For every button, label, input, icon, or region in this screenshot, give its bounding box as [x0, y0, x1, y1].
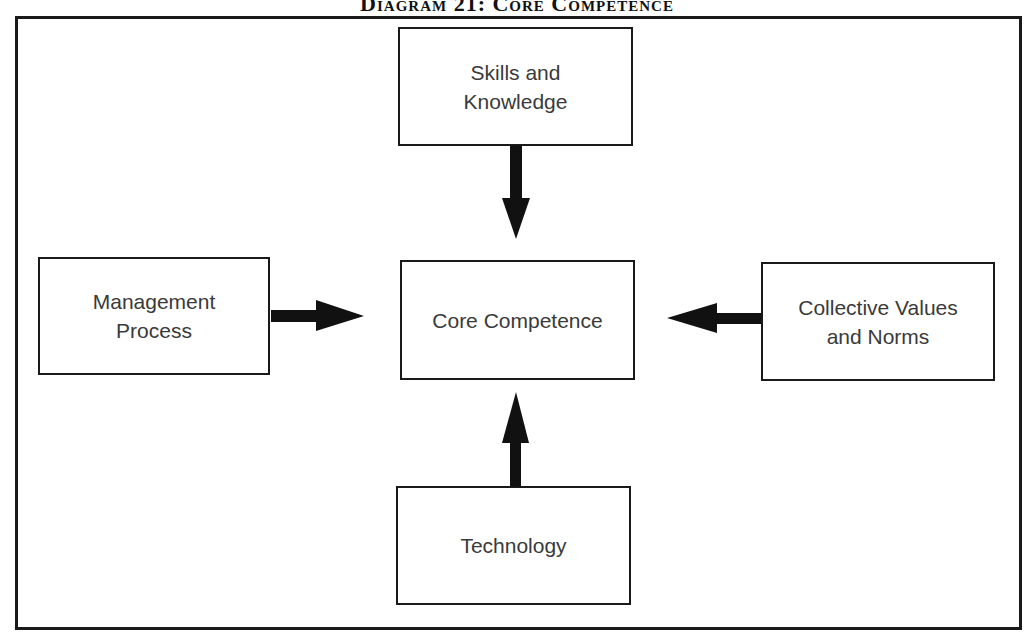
arrows-layer [0, 0, 1034, 641]
arrow-up-icon [502, 392, 529, 487]
arrow-down-icon [502, 145, 530, 239]
arrow-right-icon [271, 300, 364, 331]
arrow-left-icon [667, 303, 761, 333]
